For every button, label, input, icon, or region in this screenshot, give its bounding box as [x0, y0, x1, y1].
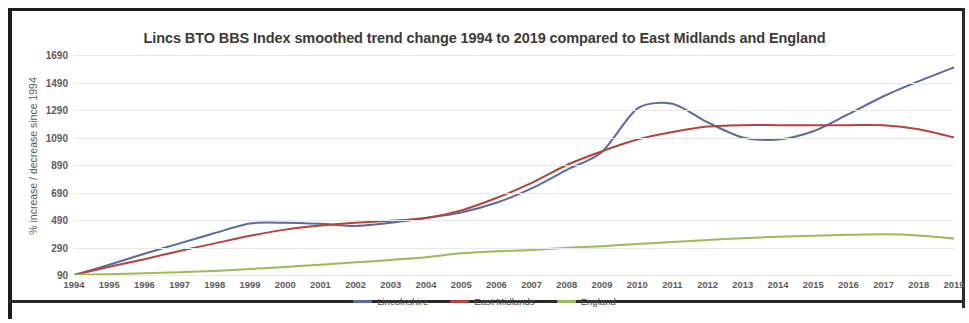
y-axis-tick-label: 1090	[24, 132, 68, 143]
x-axis-tick-label: 1999	[240, 279, 261, 290]
legend-label: England	[581, 296, 616, 307]
x-axis-tick-label: 2007	[521, 279, 542, 290]
legend-color-swatch	[557, 300, 576, 302]
x-axis-tick-label: 1998	[204, 279, 225, 290]
x-axis-tick-label: 1994	[64, 279, 85, 290]
series-line-lincolnshire	[74, 67, 954, 275]
y-axis-tick-label: 1490	[24, 77, 68, 88]
y-axis-tick-labels: 169014901290109089069049029090	[24, 0, 68, 323]
gridline	[74, 193, 954, 194]
x-axis-tick-label: 2015	[803, 279, 824, 290]
x-axis-tick-label: 2003	[380, 279, 401, 290]
x-axis-tick-label: 2000	[275, 279, 296, 290]
x-axis-tick-label: 2019	[944, 279, 965, 290]
y-axis-tick-label: 490	[24, 215, 68, 226]
x-axis-tick-label: 2013	[732, 279, 753, 290]
x-axis-tick-label: 2012	[697, 279, 718, 290]
x-axis-tick-label: 2006	[486, 279, 507, 290]
plot-area	[74, 55, 954, 275]
legend-label: East Midlands	[474, 296, 534, 307]
y-axis-tick-label: 290	[24, 242, 68, 253]
chart-legend: LincolnshireEast MidlandsEngland	[0, 296, 969, 307]
y-axis-tick-label: 1290	[24, 105, 68, 116]
legend-item-lincolnshire[interactable]: Lincolnshire	[353, 296, 428, 307]
gridline	[74, 275, 954, 276]
x-axis-tick-label: 1995	[99, 279, 120, 290]
legend-label: Lincolnshire	[377, 296, 428, 307]
x-axis-tick-label: 2010	[627, 279, 648, 290]
series-line-england	[74, 234, 954, 275]
y-axis-tick-label: 690	[24, 187, 68, 198]
gridline	[74, 55, 954, 56]
legend-color-swatch	[353, 300, 372, 302]
legend-color-swatch	[450, 300, 469, 302]
x-axis-tick-label: 2002	[345, 279, 366, 290]
gridline	[74, 138, 954, 139]
x-axis-tick-label: 2016	[838, 279, 859, 290]
x-axis-tick-label: 2005	[451, 279, 472, 290]
y-axis-tick-label: 90	[24, 270, 68, 281]
y-axis-tick-label: 890	[24, 160, 68, 171]
legend-item-england[interactable]: England	[557, 296, 616, 307]
x-axis-tick-label: 2001	[310, 279, 331, 290]
gridline	[74, 248, 954, 249]
series-line-east-midlands	[74, 125, 954, 275]
y-axis-tick-label: 1690	[24, 50, 68, 61]
x-axis-tick-label: 2008	[556, 279, 577, 290]
x-axis-tick-label: 2004	[416, 279, 437, 290]
x-axis-tick-label: 2011	[662, 279, 682, 290]
gridline	[74, 83, 954, 84]
x-axis-tick-label: 2009	[592, 279, 613, 290]
x-axis-tick-label: 2014	[768, 279, 789, 290]
gridline	[74, 110, 954, 111]
x-axis-tick-label: 2017	[873, 279, 894, 290]
line-chart: Lincs BTO BBS Index smoothed trend chang…	[0, 0, 969, 323]
gridline	[74, 165, 954, 166]
chart-title: Lincs BTO BBS Index smoothed trend chang…	[0, 30, 969, 46]
chart-page: Lincs BTO BBS Index smoothed trend chang…	[0, 0, 969, 323]
gridline	[74, 220, 954, 221]
x-axis-tick-label: 1997	[169, 279, 190, 290]
x-axis-tick-label: 1996	[134, 279, 155, 290]
x-axis-tick-label: 2018	[908, 279, 929, 290]
legend-item-east-midlands[interactable]: East Midlands	[450, 296, 534, 307]
